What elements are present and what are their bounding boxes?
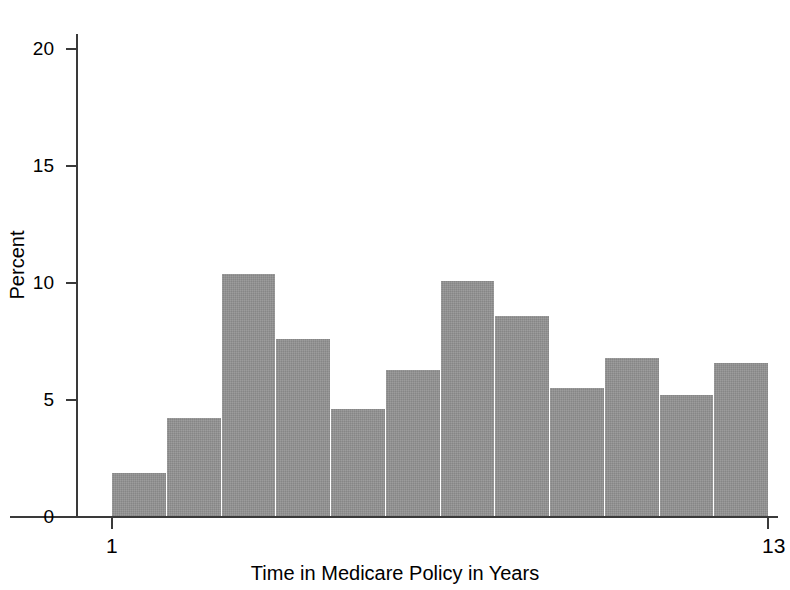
bar [605, 358, 660, 517]
bar [441, 281, 496, 517]
bar [222, 274, 277, 517]
x-axis-title: Time in Medicare Policy in Years [0, 562, 790, 584]
bar [331, 409, 386, 517]
y-axis-tick-label: 10 [33, 273, 54, 292]
y-axis-tick-label: 20 [33, 39, 54, 58]
bar [112, 473, 167, 517]
y-axis-tick [66, 165, 77, 167]
y-axis-tick-label: 0 [43, 507, 54, 526]
bar-series [112, 20, 768, 517]
bar [550, 388, 605, 517]
x-axis-line [10, 516, 778, 518]
x-axis-tick [767, 518, 769, 529]
y-axis-tick [66, 516, 77, 518]
bar [167, 418, 222, 517]
y-axis-tick [66, 399, 77, 401]
x-axis-tick [111, 518, 113, 529]
y-axis-title: Percent [6, 185, 28, 345]
y-axis-tick-label: 5 [43, 390, 54, 409]
bar [276, 339, 331, 517]
histogram-figure: 05101520 113 Percent Time in Medicare Po… [0, 0, 790, 590]
x-axis-tick-label: 1 [106, 534, 118, 558]
y-axis-line [76, 34, 78, 518]
y-axis-tick-label: 15 [33, 156, 54, 175]
bar [660, 395, 715, 517]
bar [386, 370, 441, 517]
x-axis-tick-label: 13 [762, 534, 785, 558]
bar [714, 363, 768, 517]
plot-area [112, 20, 768, 517]
bar [495, 316, 550, 517]
y-axis-tick [66, 282, 77, 284]
y-axis-tick [66, 48, 77, 50]
